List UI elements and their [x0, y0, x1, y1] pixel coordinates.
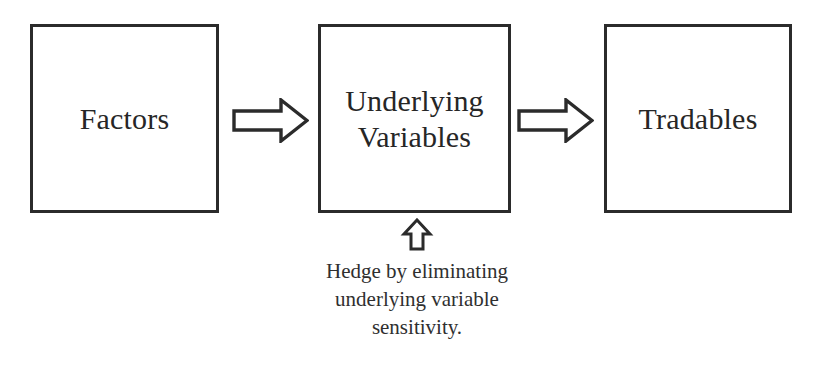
hedge-annotation-line-1: Hedge by eliminating: [277, 258, 557, 286]
block-arrow-right-shape: [232, 98, 309, 143]
node-label-tradables: Tradables: [638, 101, 757, 136]
node-label-underlying-variables: Underlying Variables: [345, 83, 484, 154]
hedge-annotation-text: Hedge by eliminating underlying variable…: [277, 258, 557, 342]
hedge-annotation-line-2: underlying variable: [277, 286, 557, 314]
block-arrow-right-shape: [517, 98, 594, 143]
block-arrow-up-icon: [400, 218, 434, 252]
node-label-factors: Factors: [80, 101, 170, 136]
hedge-annotation-line-3: sensitivity.: [277, 314, 557, 342]
node-box-factors: Factors: [30, 24, 219, 213]
node-box-underlying-variables: Underlying Variables: [318, 24, 511, 213]
diagram-canvas: Factors Underlying Variables Tradables H…: [0, 0, 817, 374]
block-arrow-right-icon: [232, 98, 309, 143]
block-arrow-up-shape: [400, 218, 434, 252]
block-arrow-right-icon: [517, 98, 594, 143]
node-box-tradables: Tradables: [604, 24, 792, 213]
